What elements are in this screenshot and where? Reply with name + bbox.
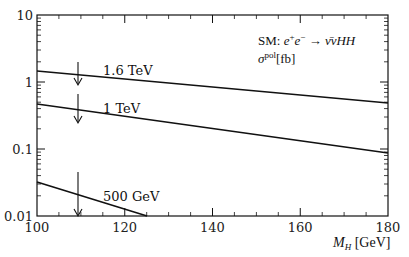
mass-symbol: M: [333, 235, 345, 250]
higgs-pair: HH: [336, 33, 355, 48]
x-tick-100: 100: [25, 220, 50, 235]
y-tick-10: 10: [16, 8, 33, 23]
unit-fb: [fb]: [276, 51, 296, 66]
process-annotation: SM: e+e− → ν̄νHH: [258, 29, 355, 49]
x-tick-180: 180: [376, 220, 401, 235]
label-1.6-tev: 1.6 TeV: [103, 63, 153, 78]
x-axis-label: MH [GeV]: [333, 235, 390, 252]
label-1-tev: 1 TeV: [103, 101, 141, 116]
sm-prefix: SM:: [258, 33, 284, 48]
y-tick-1: 1: [25, 75, 33, 90]
arrow-markers: [74, 62, 82, 216]
label-500-gev: 500 GeV: [103, 189, 160, 204]
x-tick-160: 160: [288, 220, 313, 235]
x-tick-120: 120: [112, 220, 137, 235]
arrow: →: [305, 33, 325, 48]
sigma-annotation: σpol[fb]: [258, 47, 295, 67]
unit-gev: [GeV]: [351, 235, 390, 250]
curve-1.6-tev: [37, 71, 388, 103]
neutrinos: ν̄ν: [325, 33, 337, 48]
y-tick-0.1: 0.1: [12, 142, 33, 157]
pol: pol: [264, 50, 276, 60]
curve-1-tev: [37, 104, 388, 153]
y-ticks: [37, 82, 388, 149]
x-tick-140: 140: [200, 220, 225, 235]
